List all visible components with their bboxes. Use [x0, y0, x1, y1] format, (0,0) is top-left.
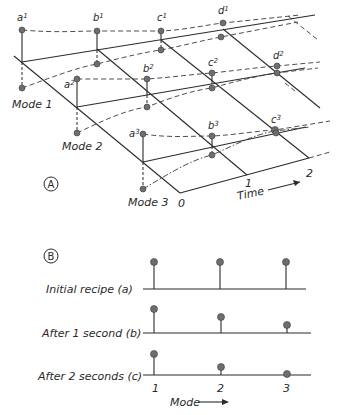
svg-text:b3: b3 [208, 120, 219, 131]
svg-text:B: B [48, 251, 55, 262]
panel-a-badge: A [44, 177, 58, 191]
time-tick-2: 2 [306, 167, 313, 180]
row-initial-recipe: Initial recipe (a) [46, 259, 306, 297]
mode3-stems [143, 134, 212, 189]
row-after-1-second: After 1 second (b) [41, 306, 311, 341]
mode-tick-2: 2 [217, 382, 224, 395]
svg-text:d2: d2 [273, 50, 284, 61]
svg-text:a1: a1 [17, 12, 28, 23]
panel-b: B Initial recipe (a) After 1 second (b) [37, 249, 311, 409]
time-tick-0: 0 [178, 197, 185, 210]
row-label: After 1 second (b) [41, 327, 141, 340]
time-arrow-icon [268, 180, 300, 190]
row-label: After 2 seconds (c) [37, 370, 142, 383]
mode1-label: Mode 1 [12, 98, 52, 111]
svg-text:c2: c2 [208, 57, 219, 68]
time-gridlines [14, 16, 320, 193]
mode-arrow-icon [198, 399, 229, 405]
svg-text:b1: b1 [93, 12, 104, 23]
svg-text:d1: d1 [218, 5, 229, 16]
svg-text:A: A [48, 179, 55, 190]
time-axis-label: Time [236, 185, 266, 203]
point-labels: a1 b1 c1 d1 a2 b2 c2 d2 a3 b3 c3 [17, 5, 284, 139]
mode-tick-3: 3 [283, 382, 290, 395]
svg-text:b2: b2 [143, 63, 154, 74]
svg-text:a2: a2 [64, 79, 75, 90]
svg-text:c1: c1 [157, 12, 167, 23]
mode2-dots [74, 63, 280, 136]
svg-text:c3: c3 [271, 114, 281, 125]
mode3-upper-envelope [143, 121, 330, 137]
panel-a: a1 b1 c1 d1 a2 b2 c2 d2 a3 b3 c3 Mode 1 … [12, 5, 330, 210]
mode-tick-1: 1 [152, 382, 159, 395]
mode3-label: Mode 3 [128, 196, 168, 209]
mode2-label: Mode 2 [62, 140, 102, 153]
row-after-2-seconds: After 2 seconds (c) [37, 351, 311, 384]
mode-axis-label: Mode [170, 396, 200, 409]
row-label: Initial recipe (a) [46, 283, 133, 296]
svg-text:a3: a3 [129, 128, 140, 139]
panel-b-badge: B [44, 249, 58, 263]
mode-decay-figure: a1 b1 c1 d1 a2 b2 c2 d2 a3 b3 c3 Mode 1 … [0, 0, 341, 415]
